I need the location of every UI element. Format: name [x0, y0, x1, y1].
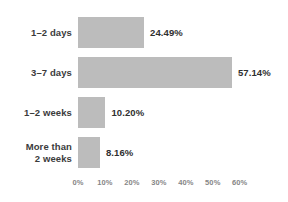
- value-label: 24.49%: [150, 17, 183, 48]
- x-axis-tick: 30%: [151, 178, 166, 187]
- category-label: 3–7 days: [2, 57, 72, 88]
- x-axis-tick: 60%: [232, 178, 247, 187]
- x-axis-tick: 50%: [205, 178, 220, 187]
- bar[interactable]: [78, 17, 144, 48]
- x-axis-tick: 0%: [72, 178, 83, 187]
- bar-row: 1–2 weeks 10.20%: [0, 97, 288, 128]
- x-axis: 0%10%20%30%40%50%60%: [0, 178, 288, 200]
- value-label: 10.20%: [111, 97, 144, 128]
- bar-row: More than 2 weeks 8.16%: [0, 137, 288, 168]
- bar-chart: 1–2 days 24.49% 3–7 days 57.14% 1–2 week…: [0, 0, 288, 202]
- category-label: More than 2 weeks: [2, 137, 72, 168]
- x-axis-tick: 20%: [124, 178, 139, 187]
- bar[interactable]: [78, 57, 232, 88]
- value-label: 8.16%: [106, 137, 133, 168]
- bar-row: 1–2 days 24.49%: [0, 17, 288, 48]
- value-label: 57.14%: [238, 57, 271, 88]
- category-label: 1–2 days: [2, 17, 72, 48]
- bar[interactable]: [78, 137, 100, 168]
- bar[interactable]: [78, 97, 105, 128]
- plot-area: 1–2 days 24.49% 3–7 days 57.14% 1–2 week…: [0, 0, 288, 176]
- category-label: 1–2 weeks: [2, 97, 72, 128]
- x-axis-tick: 40%: [178, 178, 193, 187]
- bar-row: 3–7 days 57.14%: [0, 57, 288, 88]
- x-axis-tick: 10%: [97, 178, 112, 187]
